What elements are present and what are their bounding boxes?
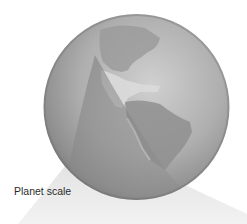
caption-planet-scale: Planet scale <box>14 185 71 198</box>
globe <box>44 14 230 200</box>
